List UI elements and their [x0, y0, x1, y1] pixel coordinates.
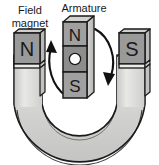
rotation-arrow-left-head — [46, 40, 57, 53]
north-arm-side-face — [40, 64, 45, 96]
armature-side-face — [87, 16, 94, 98]
field-magnet-label-line1: Field — [18, 4, 42, 16]
rotation-arrow-right — [95, 29, 113, 76]
south-arm-side-face — [145, 64, 150, 96]
armature-axle-icon — [69, 53, 80, 64]
rotation-arrow-right-head — [103, 72, 115, 86]
south-pole-letter: S — [125, 38, 138, 60]
figure-canvas: N S — [0, 0, 159, 165]
armature: N S — [63, 16, 94, 98]
magnet-motor-diagram: N S — [0, 0, 159, 165]
armature-label: Armature — [61, 2, 106, 14]
armature-north-letter: N — [69, 26, 81, 45]
north-pole-letter: N — [20, 38, 34, 60]
north-pole-separator — [14, 64, 40, 68]
south-pole-separator — [119, 64, 145, 68]
armature-south-letter: S — [69, 77, 80, 96]
field-magnet-label-line2: magnet — [12, 17, 49, 29]
